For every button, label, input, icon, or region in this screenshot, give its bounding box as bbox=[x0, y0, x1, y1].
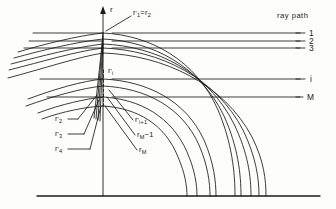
ray-path-title: ray path bbox=[277, 12, 308, 20]
ray-arc-i-right bbox=[103, 79, 216, 196]
ray-arc-2-right bbox=[103, 39, 241, 196]
ray-arc-5-left bbox=[8, 53, 103, 78]
label-r-prime-4: r′4 bbox=[55, 145, 62, 153]
label-r-prime-2: r′2 bbox=[55, 115, 62, 123]
ray-arc-4-left bbox=[9, 48, 103, 70]
ray-path-label-M: M bbox=[307, 93, 314, 101]
diagram-ink bbox=[8, 6, 320, 196]
label-r-prime-i: r′i bbox=[108, 67, 113, 75]
label-r-prime-i-plus-1: r′i+1 bbox=[135, 116, 147, 124]
leader-r-prime-1-equals-r-2 bbox=[106, 16, 131, 31]
ray-arc-i-left bbox=[28, 79, 103, 99]
axis-label-r: r bbox=[110, 6, 113, 14]
ray-arc-4-right bbox=[103, 48, 259, 196]
label-r-M: rM bbox=[139, 146, 147, 154]
leader-r-prime-3b bbox=[84, 100, 99, 134]
label-r-M-minus-1: rM−1 bbox=[137, 131, 154, 139]
ray-path-label-3: 3 bbox=[309, 44, 314, 52]
ray-arc-i-plus-1-left bbox=[26, 86, 103, 106]
ray-arc-2-left bbox=[14, 39, 103, 58]
label-r-prime-3: r′3 bbox=[55, 130, 62, 138]
leader-r-M-minus-1 bbox=[107, 97, 135, 135]
ray-arc-1-left bbox=[18, 33, 103, 52]
ray-arc-M-minus-1-right bbox=[103, 97, 197, 196]
leader-r-M bbox=[105, 106, 137, 150]
axis-arrow-icon bbox=[100, 6, 106, 14]
label-r-prime-1-equals-r-2: r′1=r2 bbox=[133, 9, 151, 17]
ray-path-label-i: i bbox=[310, 75, 312, 83]
leader-r-prime-4b bbox=[90, 106, 101, 149]
ray-path-diagram bbox=[0, 0, 336, 209]
